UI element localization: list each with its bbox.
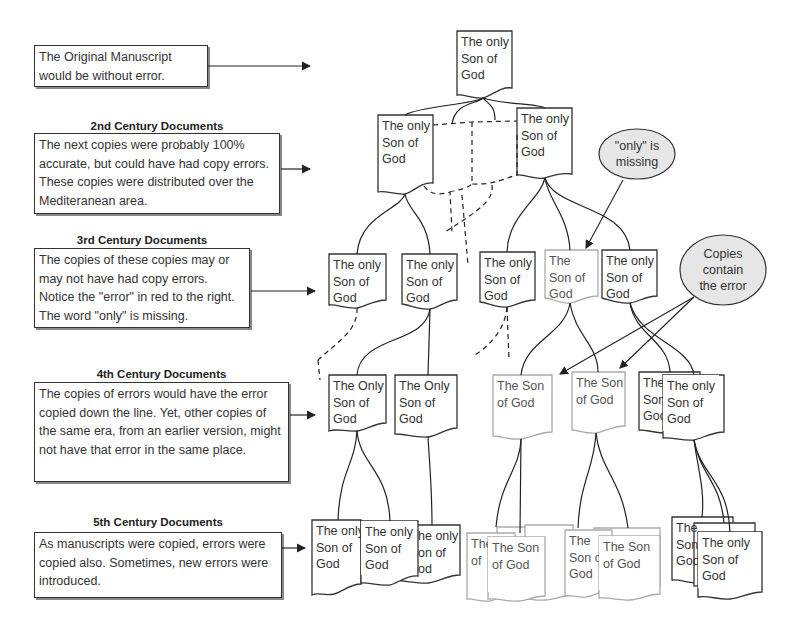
doc-5th-h: The only Son of God	[698, 532, 761, 588]
row-arrows	[208, 66, 315, 548]
doc-2nd-a: The only Son of God	[378, 115, 434, 171]
doc-5th-error-d: The Son of God	[599, 536, 659, 590]
doc-2nd-b: The only Son of God	[517, 108, 573, 164]
doc-3rd-e: The only Son of God	[602, 250, 658, 306]
doc-4th-b: The Only Son of God	[395, 375, 454, 431]
doc-original: The only Son of God	[457, 31, 513, 87]
callout-copies-contain-error: Copies contain the error	[681, 246, 765, 294]
doc-3rd-b: The only Son of God	[402, 254, 458, 310]
doc-3rd-a: The only Son of God	[329, 254, 385, 310]
doc-5th-c: he only on of od	[418, 525, 462, 581]
doc-3rd-c: The only Son of God	[480, 252, 536, 308]
doc-4th-f: The only Son of God	[663, 375, 719, 431]
doc-5th-error-b: The Son of God	[488, 537, 544, 592]
doc-5th-a: The only Son of God	[312, 520, 368, 576]
doc-3rd-error: The Son of God	[545, 250, 589, 306]
doc-4th-a: The Only Son of God	[329, 375, 388, 431]
callout-only-missing: "only" is missing	[600, 138, 674, 170]
doc-4th-error-a: The Son of God	[493, 375, 548, 414]
doc-4th-error-b: The Son of God	[572, 372, 627, 411]
doc-5th-b: The only Son of God	[361, 521, 417, 575]
